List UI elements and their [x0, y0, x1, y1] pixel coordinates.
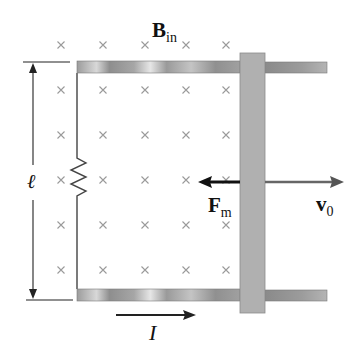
length-label: ℓ — [27, 171, 35, 191]
magnetic-field-marks — [58, 42, 230, 274]
magnetic-force-arrow — [198, 176, 240, 188]
current-symbol: I — [149, 320, 156, 345]
velocity-symbol: v — [316, 192, 327, 216]
field-label: Bin — [152, 20, 177, 41]
force-label: Fm — [208, 195, 232, 216]
bottom-rail — [77, 289, 327, 301]
field-subscript: in — [166, 30, 177, 45]
velocity-label: v0 — [316, 194, 334, 215]
field-symbol: B — [152, 18, 166, 42]
force-symbol: F — [208, 193, 221, 217]
diagram-svg — [0, 0, 357, 359]
force-subscript: m — [221, 205, 232, 220]
top-rail — [77, 61, 327, 73]
current-arrow — [116, 310, 196, 320]
length-symbol: ℓ — [27, 170, 35, 192]
diagram-canvas: Bin ℓ Fm v0 I — [0, 0, 357, 359]
resistor-wire — [71, 73, 86, 289]
velocity-subscript: 0 — [327, 204, 334, 219]
sliding-bar — [240, 53, 265, 313]
current-label: I — [149, 322, 156, 344]
velocity-arrow — [265, 176, 344, 188]
